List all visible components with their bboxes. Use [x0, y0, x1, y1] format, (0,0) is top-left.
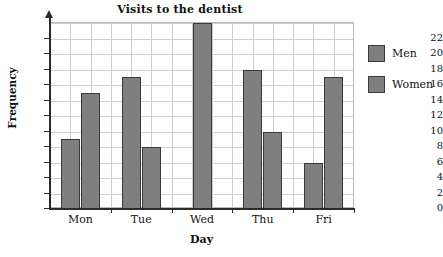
y-tick-mark — [44, 84, 50, 85]
gridline-vertical — [172, 23, 173, 207]
y-tick-mark — [44, 131, 50, 132]
plot-area — [50, 22, 354, 208]
x-tick-mark — [354, 208, 355, 213]
y-tick-mark — [44, 162, 50, 163]
bar-fri-women — [324, 77, 343, 209]
y-tick-label: 8 — [397, 141, 443, 151]
x-axis-line — [49, 208, 355, 210]
bar-thu-women — [263, 132, 282, 210]
x-tick-label-fri: Fri — [294, 213, 354, 226]
x-tick-label-mon: Mon — [50, 213, 110, 226]
gridline-vertical — [232, 23, 233, 207]
chart-legend: MenWomen — [368, 45, 443, 107]
legend-label-women: Women — [392, 78, 433, 91]
y-tick-label: 0 — [397, 203, 443, 213]
legend-item-men[interactable]: Men — [368, 45, 443, 62]
bar-tue-men — [122, 77, 141, 209]
bar-mon-men — [61, 139, 80, 209]
y-tick-label: 4 — [397, 172, 443, 182]
y-tick-mark — [44, 115, 50, 116]
y-tick-mark — [44, 208, 50, 209]
x-axis-label: Day — [49, 233, 354, 246]
x-tick-label-wed: Wed — [172, 213, 232, 226]
gridline-vertical — [212, 23, 213, 207]
y-tick-label: 2 — [397, 188, 443, 198]
legend-swatch-men — [368, 45, 385, 62]
y-tick-label: 12 — [397, 110, 443, 120]
gridline-vertical — [111, 23, 112, 207]
y-tick-label: 6 — [397, 157, 443, 167]
bar-tue-women — [142, 147, 161, 209]
x-tick-label-thu: Thu — [233, 213, 293, 226]
legend-swatch-women — [368, 76, 385, 93]
bar-wed-men — [193, 23, 212, 209]
legend-label-men: Men — [392, 47, 417, 60]
bar-thu-men — [243, 70, 262, 210]
y-tick-mark — [44, 100, 50, 101]
y-axis-line — [49, 16, 51, 209]
y-tick-label: 10 — [397, 126, 443, 136]
y-tick-mark — [44, 177, 50, 178]
gridline-vertical — [293, 23, 294, 207]
y-tick-mark — [44, 146, 50, 147]
bar-fri-men — [304, 163, 323, 210]
x-tick-label-tue: Tue — [111, 213, 171, 226]
bar-chart: Visits to the dentist Frequency Day 0246… — [0, 0, 443, 257]
y-tick-label: 22 — [397, 33, 443, 43]
y-tick-mark — [44, 69, 50, 70]
y-tick-mark — [44, 193, 50, 194]
legend-item-women[interactable]: Women — [368, 76, 443, 93]
y-axis-label: Frequency — [6, 58, 18, 138]
bar-mon-women — [81, 93, 100, 209]
y-tick-mark — [44, 38, 50, 39]
chart-title: Visits to the dentist — [0, 3, 360, 16]
y-tick-mark — [44, 53, 50, 54]
